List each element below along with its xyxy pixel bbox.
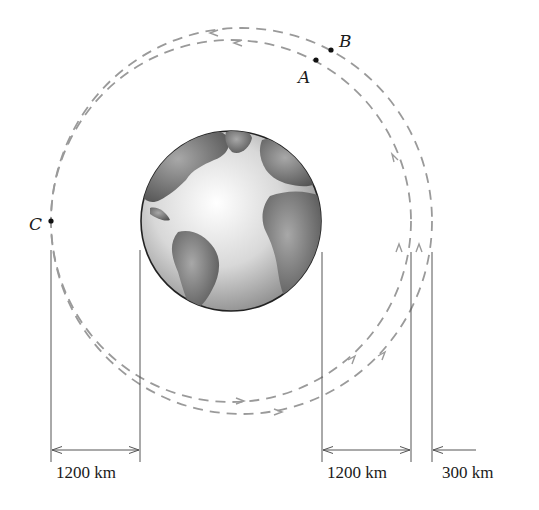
arrow-icon (416, 244, 422, 252)
svg-text:C: C (29, 214, 42, 234)
orbit-gap-label: 300 km (442, 463, 493, 482)
point-C: C (29, 214, 54, 234)
left-altitude-label: 1200 km (56, 463, 116, 482)
arrow-icon (392, 154, 398, 162)
point-B: B (328, 31, 351, 53)
point-A: A (296, 57, 319, 87)
arrow-icon (378, 352, 385, 360)
svg-text:B: B (338, 31, 352, 51)
svg-text:A: A (296, 67, 310, 87)
earth-globe (141, 130, 322, 312)
right-altitude-label: 1200 km (327, 463, 387, 482)
arrow-icon (396, 244, 402, 252)
orbit-diagram: A B C 1200 km 1200 km 300 km (0, 0, 539, 510)
